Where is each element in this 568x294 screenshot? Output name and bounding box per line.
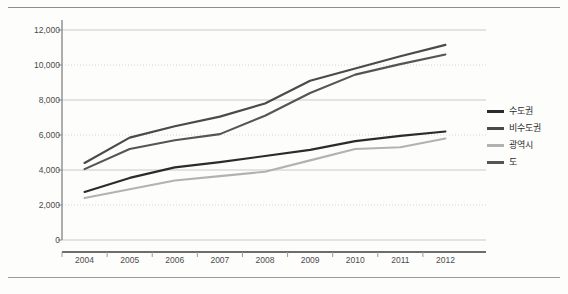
x-axis-tick-label: 2010 [346,255,365,265]
legend-line-swatch-icon [487,144,504,147]
x-axis-tick-label: 2008 [256,255,275,265]
legend-item-label: 도 [509,158,517,167]
x-axis-labels: 200420052006200720082009201020112012 [0,10,568,275]
x-axis-tick-label: 2012 [436,255,455,265]
legend-item[interactable]: 도 [487,154,565,171]
legend-item[interactable]: 수도권 [487,103,565,120]
chart-legend: 수도권비수도권광역시도 [487,103,565,171]
x-axis-tick-label: 2004 [75,255,94,265]
legend-item-label: 비수도권 [509,124,541,133]
x-axis-tick-label: 2005 [120,255,139,265]
top-divider-rule [8,7,560,8]
legend-item-label: 수도권 [509,107,533,116]
legend-item-label: 광역시 [509,141,533,150]
legend-line-swatch-icon [487,110,504,113]
chart-page: 02,0004,0006,0008,00010,00012,000 200420… [0,0,568,294]
x-axis-tick-label: 2006 [165,255,184,265]
x-axis-tick-label: 2007 [210,255,229,265]
legend-item[interactable]: 광역시 [487,137,565,154]
x-axis-tick-label: 2009 [301,255,320,265]
line-chart: 02,0004,0006,0008,00010,00012,000 200420… [0,10,568,275]
x-axis-tick-label: 2011 [391,255,409,265]
legend-line-swatch-icon [487,161,504,164]
legend-item[interactable]: 비수도권 [487,120,565,137]
legend-line-swatch-icon [487,127,504,130]
bottom-divider-rule [8,277,560,278]
